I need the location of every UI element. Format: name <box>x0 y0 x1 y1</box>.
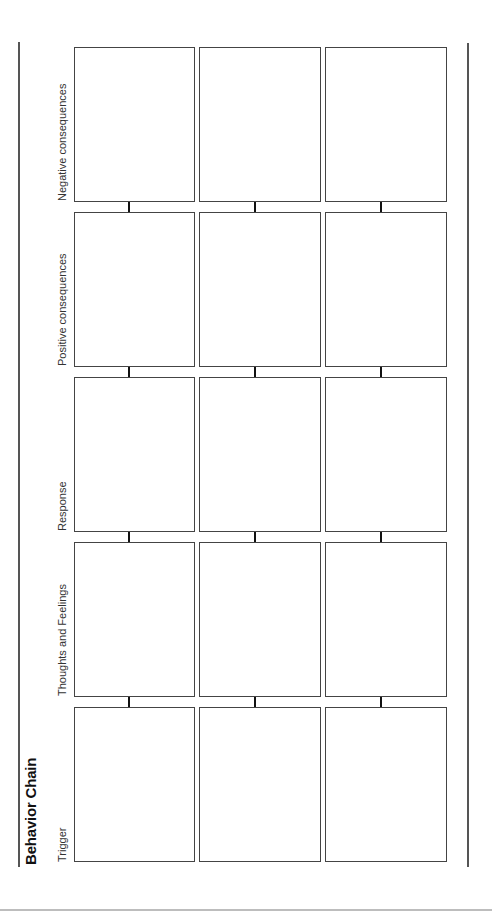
response-box-2[interactable] <box>199 377 321 532</box>
trigger-box-1[interactable] <box>74 707 195 862</box>
response-box-1[interactable] <box>74 377 195 532</box>
worksheet-title: Behavior Chain <box>22 758 39 865</box>
thoughts-feelings-box-3[interactable] <box>325 542 447 697</box>
stage-label-positive-consequences: Positive consequences <box>56 253 68 366</box>
stage-label-trigger: Trigger <box>56 828 68 862</box>
positive-consequences-box-3[interactable] <box>325 212 447 367</box>
thoughts-feelings-box-1[interactable] <box>74 542 195 697</box>
negative-consequences-box-3[interactable] <box>325 47 447 202</box>
positive-consequences-box-2[interactable] <box>199 212 321 367</box>
stage-label-thoughts-feelings: Thoughts and Feelings <box>56 584 68 696</box>
trigger-box-2[interactable] <box>199 707 321 862</box>
thoughts-feelings-box-2[interactable] <box>199 542 321 697</box>
response-box-3[interactable] <box>325 377 447 532</box>
trigger-box-3[interactable] <box>325 707 447 862</box>
right-rule <box>467 43 469 867</box>
stage-label-negative-consequences: Negative consequences <box>56 84 68 201</box>
positive-consequences-box-1[interactable] <box>74 212 195 367</box>
negative-consequences-box-2[interactable] <box>199 47 321 202</box>
page-bottom-divider <box>0 909 492 911</box>
negative-consequences-box-1[interactable] <box>74 47 195 202</box>
left-rule <box>18 42 20 867</box>
stage-label-response: Response <box>56 481 68 531</box>
